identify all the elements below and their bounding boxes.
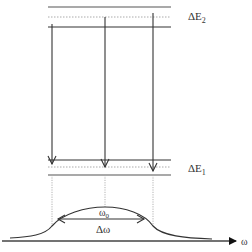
transition-arrow-center [101,17,109,167]
transition-arrows [48,13,157,171]
transition-arrow-right [149,13,157,171]
projection-lines [52,175,153,226]
omega0-label: ω0 [99,207,110,220]
omega-axis-label: ω [241,236,248,247]
delta-e2-label: ΔE2 [188,10,206,25]
transition-arrow-left [48,24,56,164]
delta-omega-label: Δω [96,223,110,235]
lineshape-curve [10,207,212,239]
energy-level-diagram: ΔE2 ΔE1 ω0 Δω ω [0,0,252,252]
delta-e1-label: ΔE1 [188,162,206,177]
